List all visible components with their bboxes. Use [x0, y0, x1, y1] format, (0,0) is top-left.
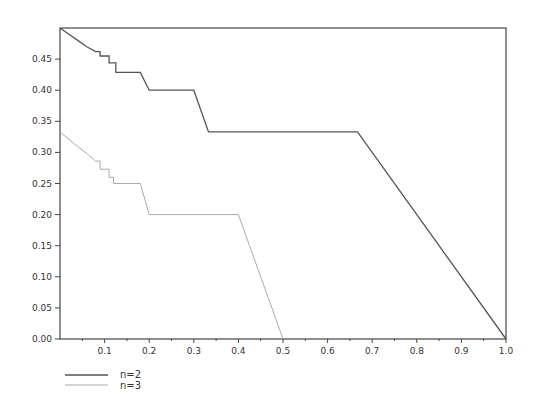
y-tick-label: 0.30 — [32, 147, 52, 157]
legend: n=2 n=3 — [65, 369, 141, 391]
x-tick-label: 0.9 — [454, 346, 469, 356]
y-tick-label: 0.20 — [32, 210, 52, 220]
legend-label-n3: n=3 — [120, 380, 141, 391]
series-lines — [60, 28, 506, 339]
x-tick-label: 0.2 — [142, 346, 156, 356]
x-tick-label: 0.8 — [410, 346, 425, 356]
legend-label-n2: n=2 — [120, 369, 141, 380]
y-tick-label: 0.00 — [32, 334, 52, 344]
x-tick-label: 0.1 — [97, 346, 111, 356]
series-line-n3 — [60, 132, 283, 339]
x-tick-label: 0.7 — [365, 346, 379, 356]
y-tick-label: 0.15 — [32, 241, 52, 251]
y-tick-label: 0.25 — [32, 179, 52, 189]
line-chart: 0.10.20.30.40.50.60.70.80.91.0 0.000.050… — [0, 0, 537, 409]
y-axis: 0.000.050.100.150.200.250.300.350.400.45 — [32, 54, 60, 344]
x-tick-label: 0.4 — [231, 346, 246, 356]
x-tick-label: 0.6 — [320, 346, 335, 356]
x-tick-label: 0.5 — [276, 346, 290, 356]
y-tick-label: 0.35 — [32, 116, 52, 126]
y-tick-label: 0.45 — [32, 54, 52, 64]
x-axis: 0.10.20.30.40.50.60.70.80.91.0 — [82, 339, 513, 356]
y-tick-label: 0.05 — [32, 303, 52, 313]
y-tick-label: 0.40 — [32, 85, 52, 95]
y-tick-label: 0.10 — [32, 272, 52, 282]
x-tick-label: 0.3 — [187, 346, 201, 356]
x-tick-label: 1.0 — [499, 346, 514, 356]
